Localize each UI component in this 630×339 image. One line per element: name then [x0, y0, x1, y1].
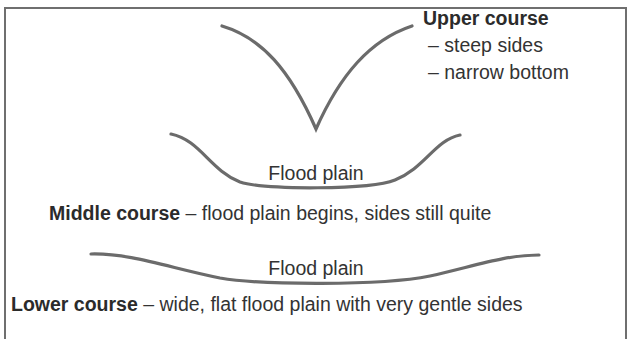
lower-floodplain-label: Flood plain — [268, 259, 363, 279]
middle-floodplain-label: Flood plain — [268, 164, 363, 184]
middle-course-description: – flood plain begins, sides still quite — [180, 202, 491, 224]
middle-course-caption: Middle course – flood plain begins, side… — [49, 204, 491, 224]
upper-valley-v-profile — [222, 26, 412, 129]
lower-course-caption: Lower course – wide, flat flood plain wi… — [11, 295, 523, 315]
middle-course-heading: Middle course — [49, 202, 180, 224]
upper-course-heading: Upper course — [423, 9, 549, 29]
upper-course-point-steep-sides: – steep sides — [428, 36, 543, 56]
upper-course-point-narrow-bottom: – narrow bottom — [428, 63, 569, 83]
lower-course-description: – wide, flat flood plain with very gentl… — [138, 293, 523, 315]
lower-course-heading: Lower course — [11, 293, 138, 315]
